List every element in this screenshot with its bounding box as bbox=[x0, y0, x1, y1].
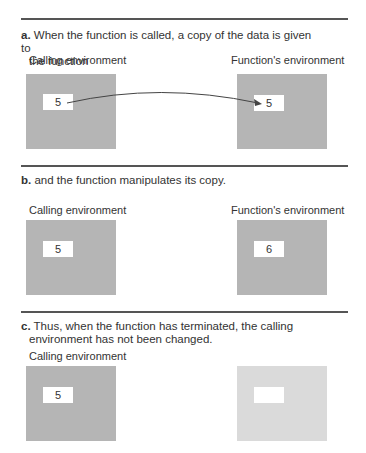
calling-environment-box-a: 5 bbox=[26, 74, 116, 149]
data-cell: 5 bbox=[43, 241, 73, 257]
divider-c bbox=[21, 311, 348, 313]
data-cell: 6 bbox=[254, 241, 284, 257]
data-cell: 5 bbox=[254, 95, 284, 111]
calling-environment-label-b: Calling environment bbox=[29, 204, 126, 216]
divider-a bbox=[21, 18, 348, 20]
calling-environment-label-c: Calling environment bbox=[29, 350, 126, 362]
calling-environment-box-b: 5 bbox=[26, 220, 116, 295]
panel-label-a: a. bbox=[21, 29, 31, 41]
function-environment-box-a: 5 bbox=[237, 74, 327, 149]
data-cell: 5 bbox=[43, 387, 73, 403]
calling-environment-label-a: Calling environment bbox=[29, 54, 126, 66]
data-cell: 5 bbox=[43, 94, 73, 110]
function-environment-label-b: Function's environment bbox=[231, 204, 344, 216]
caption-c: c. Thus, when the function has terminate… bbox=[21, 320, 321, 346]
calling-environment-box-c: 5 bbox=[26, 366, 116, 441]
divider-b bbox=[21, 165, 348, 167]
empty-data-cell bbox=[254, 387, 284, 403]
caption-b: b. and the function manipulates its copy… bbox=[21, 174, 321, 187]
function-environment-label-a: Function's environment bbox=[231, 54, 344, 66]
function-environment-box-b: 6 bbox=[237, 220, 327, 295]
panel-label-c: c. bbox=[21, 320, 31, 332]
terminated-function-environment-box-c bbox=[237, 366, 327, 441]
panel-label-b: b. bbox=[21, 174, 31, 186]
